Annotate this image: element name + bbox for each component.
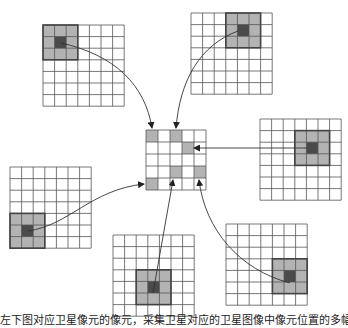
source-grid-top-right — [191, 13, 272, 94]
target-filled-cell — [182, 142, 194, 154]
target-filled-cell — [146, 130, 158, 142]
center-pixel — [306, 142, 318, 154]
target-filled-cell — [170, 130, 182, 142]
source-grid-top-left — [43, 25, 124, 106]
center-pixel — [284, 270, 296, 282]
figure-caption: 左下图对应卫星像元的像元，采集卫星对应的卫星图像中像元位置的多幅影像 — [0, 314, 348, 328]
target-filled-cell — [146, 178, 158, 190]
center-pixel — [237, 25, 249, 37]
source-grid-right — [260, 119, 341, 200]
source-grid-bottom-center — [113, 235, 194, 316]
arrows — [28, 31, 307, 293]
target-filled-cell — [170, 166, 182, 178]
source-grid-left — [10, 167, 91, 248]
target-grid — [146, 130, 206, 190]
source-grid-bottom-right — [226, 224, 307, 305]
source-grids — [10, 13, 341, 316]
center-pixel — [55, 37, 67, 49]
target-filled-cell — [194, 166, 206, 178]
diagram-canvas — [0, 0, 348, 328]
